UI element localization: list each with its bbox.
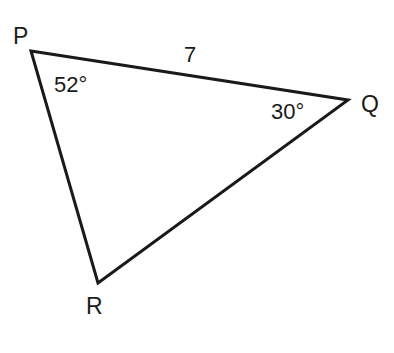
vertex-label-p: P bbox=[13, 25, 28, 48]
geometry-figure: P Q R 52° 30° 7 bbox=[0, 0, 394, 353]
angle-label-p: 52° bbox=[54, 74, 87, 96]
angle-label-q: 30° bbox=[271, 101, 304, 123]
vertex-label-q: Q bbox=[361, 93, 379, 116]
vertex-label-r: R bbox=[86, 295, 103, 318]
side-length-label-pq: 7 bbox=[184, 44, 196, 66]
triangle-shape bbox=[0, 0, 394, 353]
